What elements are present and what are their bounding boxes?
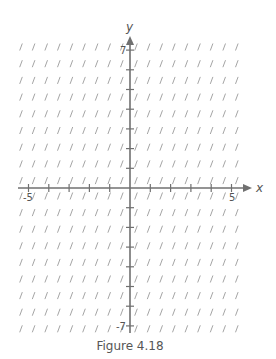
slope-mark <box>45 177 48 184</box>
slope-mark <box>108 226 111 233</box>
slope-mark <box>173 77 176 84</box>
slope-mark <box>121 94 124 101</box>
slope-mark <box>45 160 48 167</box>
slope-mark <box>160 160 163 167</box>
slope-mark <box>83 292 86 299</box>
slope-mark <box>70 110 73 117</box>
slope-mark <box>45 226 48 233</box>
slope-mark <box>173 144 176 151</box>
slope-mark <box>147 259 150 266</box>
slope-mark <box>45 94 48 101</box>
slope-mark <box>70 325 73 332</box>
slope-mark <box>198 193 201 200</box>
slope-mark <box>236 325 239 332</box>
slope-mark <box>198 209 201 216</box>
slope-mark <box>210 292 213 299</box>
slope-mark <box>236 292 239 299</box>
slope-mark <box>108 160 111 167</box>
slope-mark <box>160 292 163 299</box>
slope-mark <box>147 226 150 233</box>
slope-mark <box>32 259 35 266</box>
slope-mark <box>83 276 86 283</box>
slope-mark <box>210 60 213 67</box>
slope-mark <box>147 160 150 167</box>
slope-mark <box>160 259 163 266</box>
slope-mark <box>20 226 23 233</box>
slope-mark <box>20 292 23 299</box>
slope-mark <box>135 94 138 101</box>
x-axis-arrow-icon <box>243 184 252 192</box>
slope-mark <box>198 276 201 283</box>
slope-mark <box>210 276 213 283</box>
slope-mark <box>58 259 61 266</box>
slope-mark <box>83 77 86 84</box>
slope-mark <box>160 309 163 316</box>
slope-mark <box>108 309 111 316</box>
slope-mark <box>95 242 98 249</box>
slope-mark <box>58 127 61 134</box>
slope-mark <box>223 144 226 151</box>
slope-mark <box>173 193 176 200</box>
slope-mark <box>95 127 98 134</box>
slope-mark <box>121 276 124 283</box>
slope-mark <box>45 193 48 200</box>
slope-mark <box>95 60 98 67</box>
slope-mark <box>198 160 201 167</box>
slope-mark <box>147 44 150 51</box>
slope-mark <box>58 77 61 84</box>
slope-mark <box>147 193 150 200</box>
slope-mark <box>83 309 86 316</box>
slope-mark <box>32 309 35 316</box>
slope-mark <box>198 177 201 184</box>
slope-mark <box>210 259 213 266</box>
slope-mark <box>70 44 73 51</box>
slope-mark <box>20 325 23 332</box>
slope-mark <box>58 226 61 233</box>
slope-mark <box>147 110 150 117</box>
slope-mark <box>173 226 176 233</box>
slope-mark <box>45 77 48 84</box>
tick-label-y-max: 7 <box>120 45 126 56</box>
slope-mark <box>160 226 163 233</box>
slope-mark <box>147 242 150 249</box>
slope-mark <box>147 209 150 216</box>
slope-mark <box>160 60 163 67</box>
slope-mark <box>121 127 124 134</box>
slope-mark <box>185 259 188 266</box>
slope-mark <box>160 44 163 51</box>
slope-mark <box>108 94 111 101</box>
slope-mark <box>70 242 73 249</box>
slope-mark <box>173 309 176 316</box>
slope-mark <box>210 242 213 249</box>
slope-mark <box>147 60 150 67</box>
slope-mark <box>108 242 111 249</box>
slope-mark <box>198 60 201 67</box>
slope-mark <box>58 160 61 167</box>
slope-mark <box>198 110 201 117</box>
slope-mark <box>135 325 138 332</box>
slope-mark <box>185 226 188 233</box>
slope-mark <box>135 160 138 167</box>
slope-mark <box>160 110 163 117</box>
slope-mark <box>173 94 176 101</box>
slope-mark <box>121 242 124 249</box>
slope-mark <box>95 209 98 216</box>
slope-mark <box>173 325 176 332</box>
slope-mark <box>198 94 201 101</box>
slope-mark <box>223 110 226 117</box>
slope-mark <box>185 94 188 101</box>
slope-mark <box>58 325 61 332</box>
slope-mark <box>236 309 239 316</box>
slope-mark <box>198 44 201 51</box>
slope-mark <box>236 276 239 283</box>
axes <box>18 36 252 333</box>
slope-mark <box>147 325 150 332</box>
slope-mark <box>95 77 98 84</box>
slope-mark <box>70 259 73 266</box>
slope-mark <box>108 292 111 299</box>
slope-mark <box>223 276 226 283</box>
slope-mark <box>32 292 35 299</box>
slope-mark <box>223 44 226 51</box>
slope-mark <box>198 325 201 332</box>
slope-mark <box>83 160 86 167</box>
